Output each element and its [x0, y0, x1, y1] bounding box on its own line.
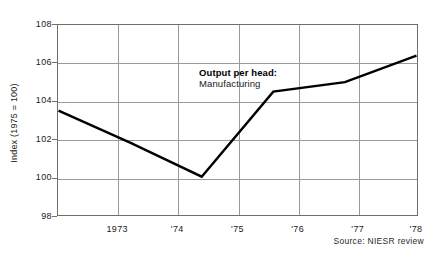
- y-tick-label: 108: [6, 20, 52, 29]
- x-tick-label: '76: [291, 224, 304, 234]
- y-axis-title: Index (1975 = 100): [9, 64, 19, 182]
- x-tick-label: '75: [231, 224, 244, 234]
- y-tick-label: 98: [6, 212, 52, 221]
- x-tick-label: '74: [171, 224, 184, 234]
- chart-figure: 108 106 104 102 100 98 Index (1975 = 100…: [0, 0, 438, 257]
- y-axis: 108 106 104 102 100 98: [0, 24, 52, 216]
- source-note: Source: NIESR review: [333, 236, 424, 246]
- x-tick-label: '78: [410, 224, 423, 234]
- chart-annotation: Output per head: Manufacturing: [199, 67, 277, 89]
- x-tick-label: '77: [351, 224, 364, 234]
- annotation-heading: Output per head:: [199, 67, 277, 78]
- annotation-subheading: Manufacturing: [199, 78, 277, 89]
- x-tick-label: 1973: [106, 224, 128, 234]
- data-series-output-per-head: [58, 25, 417, 215]
- plot-area: [57, 24, 418, 216]
